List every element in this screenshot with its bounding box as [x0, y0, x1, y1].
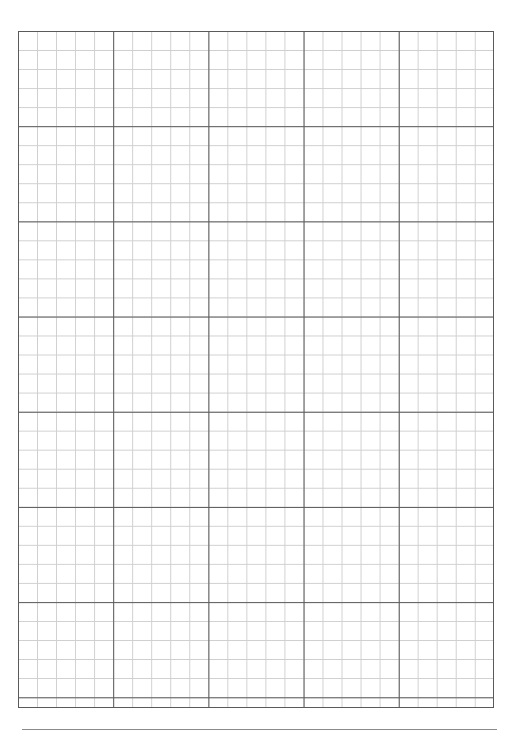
graph-paper-grid — [18, 31, 494, 708]
grid-lines-surface — [18, 31, 494, 708]
footer-horizontal-rule — [22, 729, 497, 730]
grid-bottom-edge-line — [18, 707, 494, 708]
grid-right-edge-line — [493, 31, 494, 708]
page-sheet — [0, 0, 517, 737]
